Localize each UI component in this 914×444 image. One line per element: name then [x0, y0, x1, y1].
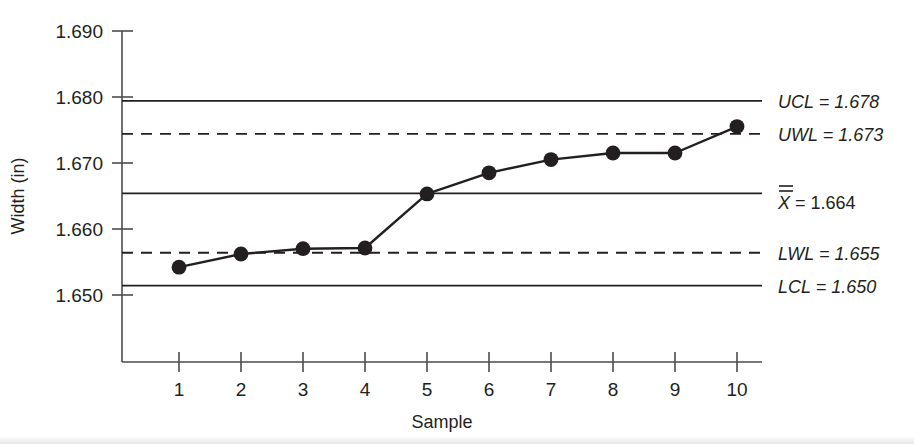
x-axis-title: Sample — [411, 412, 472, 432]
x-tick-label-4: 5 — [422, 379, 433, 400]
chart-canvas: 1.690 1.680 1.670 1.660 1.650 Width (in)… — [0, 0, 914, 444]
data-point-5[interactable] — [420, 187, 435, 202]
x-tick-label-7: 8 — [608, 379, 619, 400]
control-chart-figure: 1.690 1.680 1.670 1.660 1.650 Width (in)… — [0, 0, 914, 444]
y-tick-label-4: 1.650 — [55, 285, 103, 306]
x-tick-label-6: 7 — [546, 379, 557, 400]
lwl-annotation: LWL = 1.655 — [778, 244, 881, 264]
x-tick-label-9: 10 — [726, 379, 747, 400]
data-point-1[interactable] — [172, 260, 187, 275]
y-tick-label-2: 1.670 — [55, 153, 103, 174]
x-tick-label-5: 6 — [484, 379, 495, 400]
y-tick-label-3: 1.660 — [55, 219, 103, 240]
y-axis-title: Width (in) — [8, 157, 28, 234]
xbarbar-value: = 1.664 — [795, 193, 856, 213]
chart-background — [0, 0, 914, 444]
x-tick-label-8: 9 — [670, 379, 681, 400]
data-point-4[interactable] — [358, 241, 373, 256]
x-tick-label-2: 3 — [298, 379, 309, 400]
data-point-10[interactable] — [730, 119, 745, 134]
x-tick-label-0: 1 — [174, 379, 185, 400]
uwl-annotation: UWL = 1.673 — [778, 125, 883, 145]
data-point-8[interactable] — [606, 146, 621, 161]
data-point-6[interactable] — [482, 165, 497, 180]
lcl-annotation: LCL = 1.650 — [778, 277, 876, 297]
data-point-2[interactable] — [234, 247, 249, 262]
x-tick-label-1: 2 — [236, 379, 247, 400]
data-point-7[interactable] — [544, 152, 559, 167]
y-tick-label-1: 1.680 — [55, 87, 103, 108]
x-tick-label-3: 4 — [360, 379, 371, 400]
y-tick-label-0: 1.690 — [55, 21, 103, 42]
xbarbar-symbol: X — [777, 193, 791, 213]
ucl-annotation: UCL = 1.678 — [778, 92, 879, 112]
data-point-3[interactable] — [296, 241, 311, 256]
data-point-9[interactable] — [668, 146, 683, 161]
